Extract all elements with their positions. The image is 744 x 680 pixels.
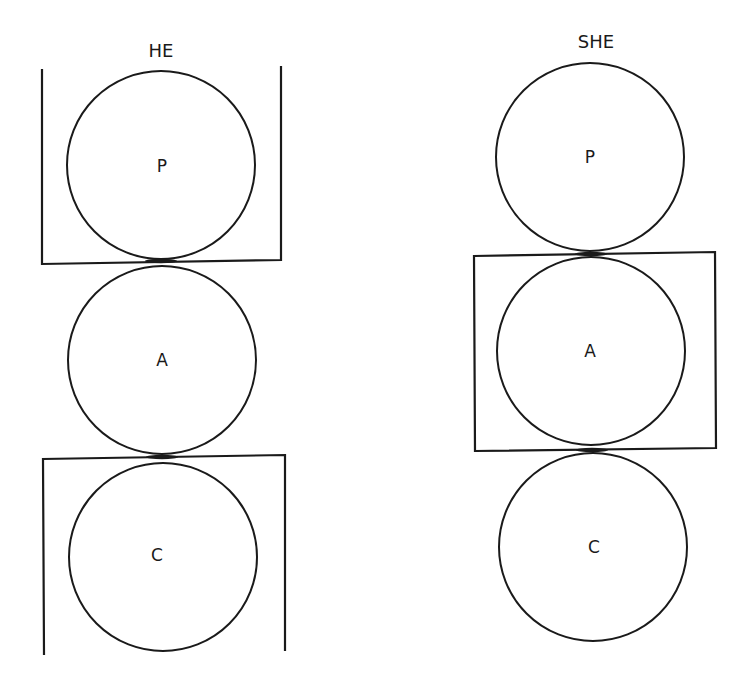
circle-c	[69, 463, 257, 651]
tangent-point	[575, 252, 607, 256]
circle-label-c: C	[151, 545, 163, 565]
tangent-point	[146, 455, 178, 459]
circle-label-p: P	[157, 156, 167, 176]
circle-label-a: A	[584, 341, 596, 361]
diagram-canvas: HE P A C SHE P A C	[0, 0, 744, 680]
tangent-point	[576, 448, 608, 452]
circle-label-p: P	[585, 147, 595, 167]
figure-she: SHE P A C	[474, 31, 716, 641]
enclosure-bracket-bottom	[43, 455, 285, 654]
circle-label-a: A	[156, 350, 168, 370]
figure-title-she: SHE	[578, 31, 614, 52]
tangent-point	[145, 259, 177, 263]
figure-he: HE P A C	[42, 40, 285, 654]
circle-label-c: C	[588, 537, 600, 557]
figure-title-he: HE	[149, 40, 174, 61]
